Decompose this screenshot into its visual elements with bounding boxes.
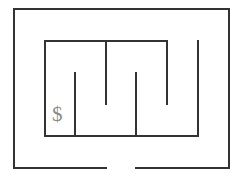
maze-walls bbox=[14, 9, 229, 168]
maze-diagram bbox=[0, 0, 242, 178]
dollar-start-marker: $ bbox=[52, 104, 63, 125]
